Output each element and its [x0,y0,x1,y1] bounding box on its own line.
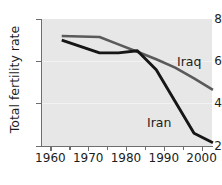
series-label-iraq: Iraq [177,54,201,69]
fertility-rate-line-chart: 8 6 4 2 1960 1970 1980 1990 2000 Total f… [0,0,222,185]
series-label-iran: Iran [147,115,171,130]
series-plot-layer [0,0,222,185]
